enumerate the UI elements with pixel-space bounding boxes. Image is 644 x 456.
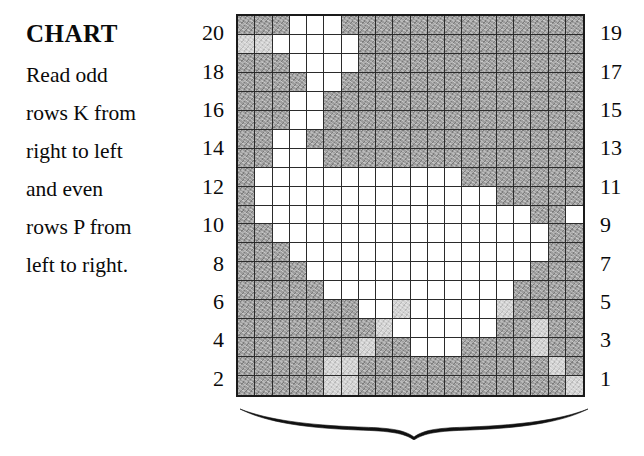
chart-cell (342, 130, 359, 149)
chart-cell (462, 111, 479, 130)
chart-cell (497, 130, 514, 149)
chart-cell (393, 206, 410, 225)
chart-cell (307, 206, 324, 225)
chart-cell (462, 262, 479, 281)
chart-cell (273, 357, 290, 376)
chart-cell (273, 149, 290, 168)
chart-cell (480, 338, 497, 357)
chart-cell (290, 130, 307, 149)
chart-cell (480, 130, 497, 149)
chart-cell (273, 319, 290, 338)
chart-cell (393, 111, 410, 130)
chart-cell (307, 243, 324, 262)
chart-cell (497, 187, 514, 206)
chart-cell (255, 262, 272, 281)
chart-cell (393, 92, 410, 111)
chart-cell (411, 35, 428, 54)
chart-cell (514, 35, 531, 54)
chart-cell (255, 187, 272, 206)
chart-cell (359, 357, 376, 376)
chart-cell (255, 73, 272, 92)
chart-cell (531, 224, 548, 243)
chart-cell (238, 54, 255, 73)
chart-cell (307, 35, 324, 54)
chart-cell (238, 338, 255, 357)
chart-cell (307, 111, 324, 130)
chart-cell (255, 357, 272, 376)
chart-cell (462, 281, 479, 300)
chart-cell (273, 130, 290, 149)
chart-cell (376, 262, 393, 281)
chart-cell (393, 319, 410, 338)
chart-cell (549, 376, 566, 395)
chart-cell (462, 73, 479, 92)
chart-cell (411, 300, 428, 319)
chart-cell (497, 243, 514, 262)
chart-cell (238, 73, 255, 92)
chart-cell (273, 187, 290, 206)
chart-cell (290, 243, 307, 262)
chart-cell (462, 338, 479, 357)
chart-cell (549, 357, 566, 376)
chart-cell (411, 130, 428, 149)
row-number-left: 16 (186, 91, 230, 129)
chart-cell (290, 111, 307, 130)
chart-cell (255, 376, 272, 395)
chart-cell (549, 187, 566, 206)
chart-cell (566, 300, 583, 319)
chart-cell (255, 149, 272, 168)
chart-cell (290, 319, 307, 338)
chart-cell (497, 168, 514, 187)
chart-cell (376, 16, 393, 35)
chart-cell (531, 16, 548, 35)
chart-cell (324, 92, 341, 111)
chart-cell (273, 54, 290, 73)
row-number-left: 2 (186, 360, 230, 398)
chart-cell (393, 243, 410, 262)
row-number-right: 13 (596, 129, 636, 167)
chart-cell (255, 92, 272, 111)
caption-instructions: Read odd rows K from right to left and e… (26, 56, 196, 284)
chart-cell (342, 224, 359, 243)
chart-cell (428, 224, 445, 243)
chart-cell (307, 281, 324, 300)
chart-cell (359, 338, 376, 357)
chart-cell (307, 168, 324, 187)
chart-cell (531, 281, 548, 300)
chart-cell (480, 243, 497, 262)
chart-cell (290, 357, 307, 376)
chart-cell (497, 35, 514, 54)
chart-cell (531, 35, 548, 54)
chart-cell (445, 281, 462, 300)
chart-cell (428, 206, 445, 225)
chart-cell (359, 243, 376, 262)
chart-cell (411, 168, 428, 187)
chart-cell (273, 300, 290, 319)
chart-cell (255, 130, 272, 149)
chart-cell (238, 319, 255, 338)
chart-cell (359, 168, 376, 187)
knitting-chart-grid (236, 14, 585, 397)
chart-cell (531, 92, 548, 111)
chart-cell (480, 224, 497, 243)
chart-cell (376, 168, 393, 187)
chart-cell (290, 16, 307, 35)
chart-cell (411, 206, 428, 225)
chart-cell (307, 300, 324, 319)
chart-cell (497, 338, 514, 357)
chart-cell (411, 111, 428, 130)
chart-cell (238, 300, 255, 319)
chart-cell (342, 54, 359, 73)
chart-cell (307, 224, 324, 243)
chart-cell (428, 149, 445, 168)
chart-cell (359, 300, 376, 319)
chart-cell (462, 35, 479, 54)
chart-cell (376, 224, 393, 243)
chart-cell (549, 168, 566, 187)
chart-cell (445, 357, 462, 376)
chart-cell (393, 168, 410, 187)
chart-cell (393, 357, 410, 376)
chart-cell (480, 376, 497, 395)
chart-cell (342, 376, 359, 395)
chart-cell (290, 281, 307, 300)
